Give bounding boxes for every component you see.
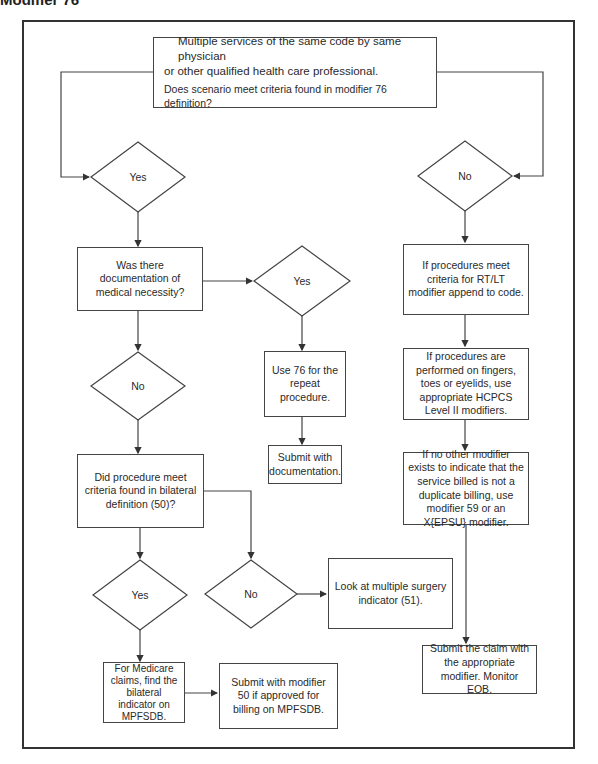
- start-box: Multiple services of the same code by sa…: [153, 37, 437, 108]
- start-question: Does scenario meet criteria found in mod…: [164, 83, 426, 110]
- medicare-text: For Medicare claims, find the bilateral …: [108, 663, 180, 723]
- no-other-modifier-text: If no other modifier exists to indicate …: [408, 448, 524, 530]
- start-line-2: or other qualified health care professio…: [164, 64, 378, 79]
- fingers-toes-box: If procedures are performed on fingers, …: [403, 348, 529, 420]
- medicare-box: For Medicare claims, find the bilateral …: [103, 662, 185, 723]
- bilateral-question-box: Did procedure meet criteria found in bil…: [77, 454, 204, 528]
- multiple-surgery-text: Look at multiple surgery indicator (51).: [333, 580, 448, 607]
- no-other-modifier-box: If no other modifier exists to indicate …: [403, 452, 529, 525]
- fingers-toes-text: If procedures are performed on fingers, …: [408, 350, 524, 418]
- decision-no-bilateral-label: No: [244, 588, 257, 600]
- decision-yes-1-label: Yes: [129, 171, 146, 183]
- decision-yes-doc-label: Yes: [293, 275, 310, 287]
- decision-no-doc-label: No: [131, 380, 144, 392]
- documentation-question-text: Was there documentation of medical neces…: [82, 259, 198, 300]
- rtlt-text: If procedures meet criteria for RT/LT mo…: [408, 259, 524, 300]
- submit-claim-text: Submit the claim with the appropriate mo…: [427, 642, 532, 697]
- submit-claim-box: Submit the claim with the appropriate mo…: [422, 645, 537, 694]
- submit-documentation-text: Submit with documentation.: [269, 451, 341, 478]
- use-76-box: Use 76 for the repeat procedure.: [264, 351, 346, 417]
- submit-modifier-50-box: Submit with modifier 50 if approved for …: [219, 663, 338, 729]
- submit-documentation-box: Submit with documentation.: [268, 445, 342, 484]
- rtlt-box: If procedures meet criteria for RT/LT mo…: [403, 244, 529, 315]
- submit-modifier-50-text: Submit with modifier 50 if approved for …: [224, 676, 333, 717]
- decision-yes-bilateral-label: Yes: [131, 589, 148, 601]
- bilateral-question-text: Did procedure meet criteria found in bil…: [82, 471, 199, 512]
- start-line-1: Multiple services of the same code by sa…: [164, 34, 426, 64]
- use-76-text: Use 76 for the repeat procedure.: [269, 364, 341, 405]
- multiple-surgery-box: Look at multiple surgery indicator (51).: [328, 558, 453, 629]
- decision-no-1-label: No: [458, 170, 471, 182]
- documentation-question-box: Was there documentation of medical neces…: [77, 247, 203, 311]
